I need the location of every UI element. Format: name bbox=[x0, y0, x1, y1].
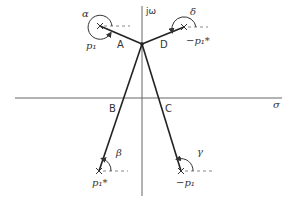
point-c-label: C bbox=[165, 103, 172, 114]
pole-p1-label: p₁ bbox=[86, 40, 96, 51]
angle-alpha-arc bbox=[88, 15, 112, 39]
line-apex-to-neg-p1 bbox=[142, 44, 181, 171]
point-d-label: D bbox=[160, 39, 168, 50]
root-locus-diagram: σ jω bbox=[0, 0, 294, 202]
real-axis-label: σ bbox=[273, 99, 281, 110]
apex-point bbox=[140, 42, 144, 46]
pole-p1-conj-label: p₁* bbox=[92, 177, 107, 188]
imaginary-axis-label: jω bbox=[145, 6, 156, 16]
angle-delta-label: δ bbox=[190, 6, 196, 17]
pole-neg-p1-conj-label: −p₁* bbox=[186, 35, 210, 46]
angle-beta-arc bbox=[103, 159, 111, 171]
angle-gamma-label: γ bbox=[197, 146, 203, 157]
angle-alpha-label: α bbox=[82, 8, 89, 19]
pole-p1-cross-icon bbox=[97, 23, 103, 29]
angle-delta-arc bbox=[172, 17, 196, 31]
point-a-label: A bbox=[117, 39, 124, 50]
point-b-label: B bbox=[109, 103, 116, 114]
angle-beta-label: β bbox=[115, 147, 122, 158]
pole-neg-p1-label: −p₁ bbox=[176, 177, 195, 188]
